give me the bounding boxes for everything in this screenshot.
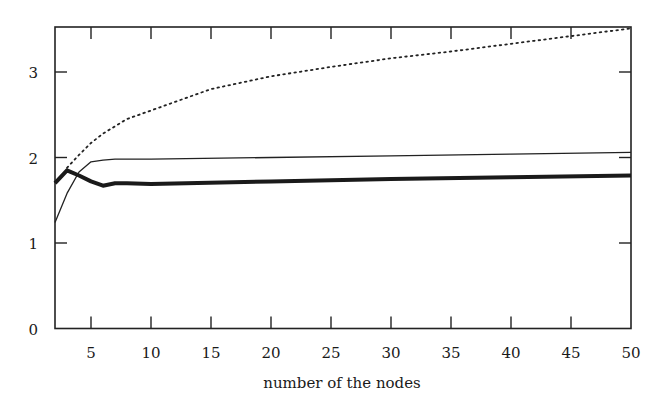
x-tick-label: 25 bbox=[321, 344, 340, 362]
x-tick-label: 45 bbox=[561, 344, 580, 362]
x-tick-label: 15 bbox=[201, 344, 220, 362]
x-axis-label: number of the nodes bbox=[263, 374, 421, 392]
x-tick-label: 10 bbox=[141, 344, 160, 362]
series-dotted-line bbox=[67, 28, 631, 167]
y-tick-label: 1 bbox=[28, 235, 38, 253]
x-tick-label: 5 bbox=[86, 344, 96, 362]
x-axis-ticks: 5101520253035404550 bbox=[86, 27, 640, 362]
series-solid-thin-line bbox=[55, 152, 631, 222]
y-axis-ticks: 0123 bbox=[28, 64, 631, 339]
line-chart: 5101520253035404550 0123 number of the n… bbox=[0, 0, 665, 410]
series-solid-thick-line bbox=[55, 170, 631, 185]
x-tick-label: 40 bbox=[501, 344, 520, 362]
y-tick-label: 0 bbox=[28, 321, 38, 339]
series-layer bbox=[55, 28, 631, 222]
y-tick-label: 2 bbox=[28, 150, 38, 168]
x-tick-label: 35 bbox=[441, 344, 460, 362]
y-tick-label: 3 bbox=[28, 64, 38, 82]
x-tick-label: 30 bbox=[381, 344, 400, 362]
x-tick-label: 50 bbox=[621, 344, 640, 362]
x-tick-label: 20 bbox=[261, 344, 280, 362]
